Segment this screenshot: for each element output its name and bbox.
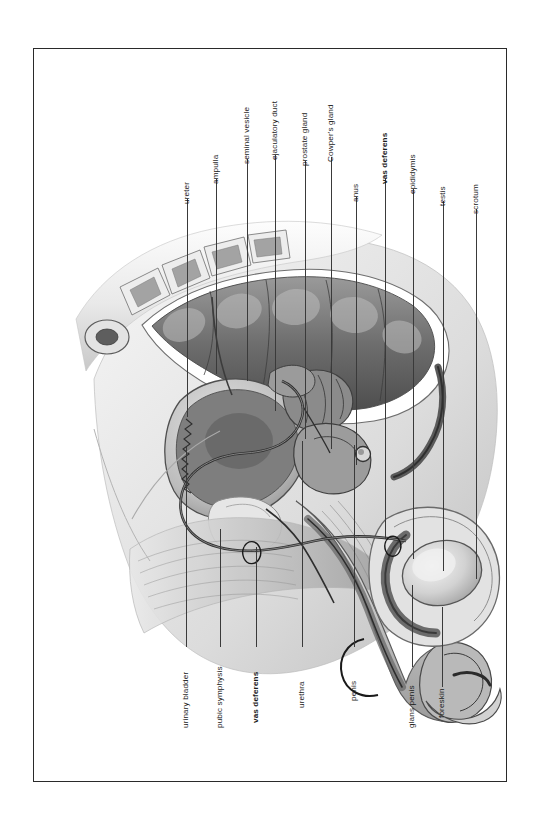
leader-line-foreskin <box>442 607 443 687</box>
leader-line-scrotum <box>476 209 477 579</box>
leader-line-seminal-vesicle <box>247 159 248 381</box>
label-glans-penis: glans penis <box>407 685 416 728</box>
label-urinary-bladder: urinary bladder <box>181 672 190 728</box>
label-anus: anus <box>351 184 360 202</box>
label-prostate-gland: prostate gland <box>300 113 309 166</box>
label-seminal-vesicle: seminal vesicle <box>242 107 251 164</box>
label-scrotum: scrotum <box>471 184 480 214</box>
leader-line-vas-deferens-bottom <box>256 547 257 647</box>
label-ejaculatory-duct: ejaculatory duct <box>270 101 279 160</box>
leader-line-vas-deferens-top <box>385 179 386 539</box>
label-pubic-symphysis: pubic symphysis <box>215 666 224 728</box>
cowpers-gland-core <box>358 449 364 455</box>
label-ampulla: ampulla <box>211 155 220 184</box>
figure-frame: Male Reproductive System Figure 19.1 ure… <box>33 48 507 782</box>
leader-line-urethra <box>302 441 303 647</box>
label-foreskin: foreskin <box>437 688 446 718</box>
label-testis: testis <box>438 186 447 206</box>
leader-line-pubic-symphysis <box>220 529 221 647</box>
label-vas-deferens-bottom: vas deferens <box>251 672 260 723</box>
leader-line-urinary-bladder <box>186 447 187 647</box>
label-epididymis: epididymis <box>408 154 417 194</box>
leader-line-testis <box>443 201 444 571</box>
glans-penis <box>420 643 492 723</box>
label-penis: penis <box>349 681 358 701</box>
label-ureter: ureter <box>182 182 191 204</box>
leader-line-cowpers-gland <box>331 157 332 449</box>
leader-line-penis <box>354 445 355 647</box>
leader-line-glans-penis <box>412 585 413 667</box>
leader-line-ampulla <box>216 179 217 374</box>
coccyx <box>85 320 129 354</box>
leader-line-ureter <box>187 199 188 417</box>
figure-page: Male Reproductive System Figure 19.1 ure… <box>0 0 539 823</box>
label-urethra: urethra <box>297 681 306 708</box>
leader-line-anus <box>356 197 357 465</box>
leader-line-prostate-gland <box>305 161 306 439</box>
leader-line-epididymis <box>413 189 414 559</box>
label-cowpers-gland: Cowper's gland <box>326 104 335 162</box>
leader-line-ejaculatory-duct <box>275 155 276 411</box>
label-vas-deferens-top: vas deferens <box>380 133 389 184</box>
